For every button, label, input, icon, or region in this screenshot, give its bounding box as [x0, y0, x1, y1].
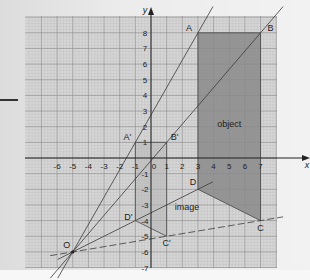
y-tick-label: 3	[143, 107, 148, 116]
object-label: object	[217, 119, 242, 129]
y-tick-label: 7	[143, 44, 148, 53]
x-tick-label: -6	[54, 162, 62, 171]
y-tick-label: 1	[143, 138, 148, 147]
y-tick-label: -7	[141, 264, 149, 273]
x-tick-label: -1	[132, 162, 140, 171]
x-tick-label: -5	[69, 162, 77, 171]
vertex-label-b-prime: B'	[171, 132, 179, 142]
centre-label-o: O	[63, 240, 70, 250]
y-tick-label: -1	[141, 170, 149, 179]
x-axis-label: x	[304, 160, 310, 170]
x-tick-label: -4	[85, 162, 93, 171]
y-tick-label: -3	[141, 201, 149, 210]
y-tick-label: 4	[143, 91, 148, 100]
vertex-label-d-prime: D'	[124, 212, 132, 222]
x-tick-label: 2	[180, 162, 185, 171]
x-tick-label: 3	[196, 162, 201, 171]
vertex-label-a-prime: A'	[123, 132, 131, 142]
x-tick-label: 1	[164, 162, 169, 171]
x-tick-label: 4	[211, 162, 216, 171]
y-tick-label: 5	[143, 76, 148, 85]
vertex-label-c-prime: C'	[163, 238, 171, 248]
vertex-label-a: A	[186, 23, 192, 33]
enlargement-diagram: xy-6-5-4-3-2-10123456712345678-1-2-3-4-5…	[0, 0, 310, 280]
y-tick-label: -6	[141, 248, 149, 257]
y-tick-label: 2	[143, 123, 148, 132]
centre-point	[71, 250, 74, 253]
y-tick-label: -2	[141, 185, 149, 194]
vertex-label-b: B	[268, 23, 274, 33]
vertex-label-c: C	[257, 223, 264, 233]
y-axis-label: y	[142, 5, 148, 15]
x-tick-label: 0	[152, 162, 157, 171]
x-tick-label: 6	[243, 162, 248, 171]
vertex-label-d: D	[190, 177, 197, 187]
y-axis-arrow-icon	[148, 7, 154, 15]
y-tick-label: 6	[143, 60, 148, 69]
image-label: image	[175, 202, 200, 212]
x-tick-label: -2	[116, 162, 124, 171]
x-tick-label: -3	[100, 162, 108, 171]
y-tick-label: -4	[141, 217, 149, 226]
y-tick-label: -5	[141, 232, 149, 241]
x-tick-label: 5	[227, 162, 232, 171]
y-tick-label: 8	[143, 29, 148, 38]
x-tick-label: 7	[258, 162, 263, 171]
